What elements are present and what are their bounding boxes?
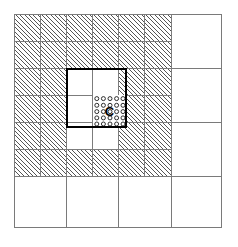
coarse-cell-bottom-1 bbox=[14, 176, 67, 228]
fine-cell-r1c0 bbox=[14, 41, 41, 69]
cell-label-c: C bbox=[93, 95, 126, 127]
stipple-cell-c: C bbox=[93, 95, 126, 127]
coarse-cell-top-right bbox=[171, 14, 222, 69]
fine-cell-r1c4 bbox=[118, 41, 145, 69]
fine-cell-r1c3 bbox=[92, 41, 119, 69]
fine-cell-r3c1 bbox=[40, 95, 67, 123]
coarse-cell-right-lower-mid bbox=[171, 122, 222, 177]
fine-cell-r2c2 bbox=[66, 68, 93, 96]
fine-cell-r5c2 bbox=[66, 149, 93, 177]
fine-cell-r4c1 bbox=[40, 122, 67, 150]
coarse-cell-right-upper-mid bbox=[171, 68, 222, 123]
fine-cell-r5c5 bbox=[144, 149, 172, 177]
fine-cell-r1c1 bbox=[40, 41, 67, 69]
fine-cell-r4c2 bbox=[66, 122, 93, 150]
fine-cell-r5c1 bbox=[40, 149, 67, 177]
coarse-cell-bottom-right bbox=[171, 176, 222, 228]
fine-cell-r2c4 bbox=[118, 68, 145, 96]
fine-cell-r4c5 bbox=[144, 122, 172, 150]
fine-cell-r0c4 bbox=[118, 14, 145, 42]
fine-cell-r1c5 bbox=[144, 41, 172, 69]
fine-cell-r0c1 bbox=[40, 14, 67, 42]
fine-cell-r5c4 bbox=[118, 149, 145, 177]
fine-cell-r5c3 bbox=[92, 149, 119, 177]
fine-cell-r2c3 bbox=[92, 68, 119, 96]
fine-cell-r0c2 bbox=[66, 14, 93, 42]
fine-cell-r3c0 bbox=[14, 95, 41, 123]
coarse-cell-bottom-3 bbox=[118, 176, 172, 228]
fine-cell-r2c0 bbox=[14, 68, 41, 96]
amr-grid-figure: C bbox=[0, 0, 238, 247]
fine-cell-r2c5 bbox=[144, 68, 172, 96]
fine-cell-r3c5 bbox=[144, 95, 172, 123]
fine-cell-r3c2 bbox=[66, 95, 93, 123]
coarse-cell-bottom-2 bbox=[66, 176, 119, 228]
fine-cell-r0c3 bbox=[92, 14, 119, 42]
fine-cell-r1c2 bbox=[66, 41, 93, 69]
fine-cell-r0c0 bbox=[14, 14, 41, 42]
fine-cell-r0c5 bbox=[144, 14, 172, 42]
fine-cell-r2c1 bbox=[40, 68, 67, 96]
fine-cell-r4c0 bbox=[14, 122, 41, 150]
fine-cell-r5c0 bbox=[14, 149, 41, 177]
